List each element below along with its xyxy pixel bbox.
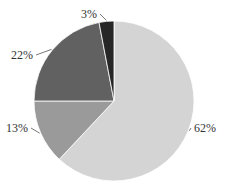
leader-line: [100, 14, 106, 20]
pie-slices: [34, 21, 194, 181]
leader-line: [31, 128, 40, 133]
slice-label: 13%: [6, 121, 28, 135]
pie-chart: 62%13%22%3%: [0, 0, 234, 194]
slice-label: 3%: [81, 7, 97, 21]
slice-label: 22%: [11, 48, 33, 62]
slice-label: 62%: [194, 121, 216, 135]
